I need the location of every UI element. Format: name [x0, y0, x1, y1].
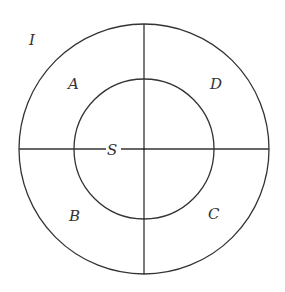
label-region-b: B	[68, 207, 80, 225]
center-point	[143, 148, 146, 151]
label-region-d: D	[209, 75, 222, 93]
label-region-a: A	[66, 75, 79, 93]
label-center-s: S	[107, 141, 117, 159]
label-outer-region: I	[28, 31, 36, 49]
diagram-canvas: I A D B C S	[0, 0, 285, 292]
label-region-c: C	[208, 205, 220, 223]
